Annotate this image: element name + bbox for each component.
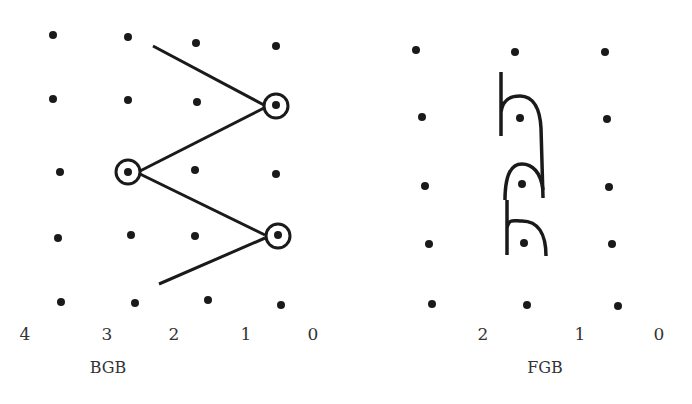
fgb-panel bbox=[412, 46, 622, 310]
bgb-strand-segment bbox=[140, 174, 265, 235]
lattice-dot bbox=[272, 170, 280, 178]
fgb-title: FGB bbox=[527, 360, 563, 376]
lattice-dot bbox=[511, 48, 519, 56]
lattice-dot bbox=[605, 183, 613, 191]
lattice-dot bbox=[272, 101, 280, 109]
lattice-dot bbox=[124, 33, 132, 41]
lattice-dot bbox=[204, 296, 212, 304]
lattice-dot bbox=[127, 231, 135, 239]
lattice-dot bbox=[274, 231, 282, 239]
lattice-dot bbox=[523, 301, 531, 309]
lattice-dot bbox=[421, 182, 429, 190]
lattice-dot bbox=[49, 95, 57, 103]
lattice-dot bbox=[418, 113, 426, 121]
lattice-dot bbox=[272, 42, 280, 50]
lattice-dot bbox=[518, 180, 526, 188]
lattice-dot bbox=[124, 168, 132, 176]
fgb-strand-loop-3 bbox=[507, 200, 546, 256]
axis-label: 1 bbox=[575, 326, 586, 343]
lattice-dot bbox=[54, 234, 62, 242]
bgb-title: BGB bbox=[90, 360, 127, 376]
lattice-dot bbox=[192, 39, 200, 47]
axis-label: 2 bbox=[478, 326, 489, 343]
bgb-strand-segment bbox=[153, 46, 264, 105]
lattice-dot bbox=[412, 46, 420, 54]
lattice-dot bbox=[601, 48, 609, 56]
axis-label: 1 bbox=[241, 326, 252, 343]
lattice-dot bbox=[131, 299, 139, 307]
lattice-dot bbox=[603, 115, 611, 123]
lattice-dot bbox=[49, 31, 57, 39]
lattice-dot bbox=[56, 168, 64, 176]
axis-label: 0 bbox=[308, 326, 319, 343]
lattice-dot bbox=[614, 302, 622, 310]
lattice-dot bbox=[520, 239, 528, 247]
lattice-dot bbox=[191, 166, 199, 174]
lattice-dot bbox=[516, 114, 524, 122]
axis-label: 4 bbox=[20, 326, 31, 343]
lattice-dot bbox=[124, 96, 132, 104]
lattice-dot bbox=[425, 240, 433, 248]
bgb-strand-segment bbox=[159, 238, 265, 284]
lattice-dot bbox=[57, 298, 65, 306]
axis-label: 2 bbox=[169, 326, 180, 343]
lattice-dot bbox=[191, 232, 199, 240]
bgb-strand-segment bbox=[140, 108, 264, 171]
lattice-dot bbox=[608, 240, 616, 248]
lattice-dot bbox=[193, 98, 201, 106]
bgb-panel bbox=[49, 31, 290, 309]
lattice-dot bbox=[428, 300, 436, 308]
lattice-dot bbox=[277, 301, 285, 309]
axis-label: 3 bbox=[102, 326, 113, 343]
axis-label: 0 bbox=[654, 326, 665, 343]
